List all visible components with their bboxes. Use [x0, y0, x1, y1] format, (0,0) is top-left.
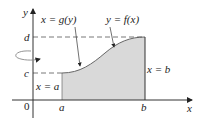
tick-a: a: [59, 102, 65, 113]
x-axis-label: x: [187, 103, 192, 114]
tick-d: d: [24, 32, 30, 43]
label-y-equals-f-x: y = f(x): [106, 14, 139, 25]
label-x-equals-g-y: x = g(y): [41, 14, 77, 25]
pointer-g: [75, 27, 80, 66]
y-axis-label: y: [23, 7, 28, 18]
tick-c: c: [24, 68, 29, 79]
shaded-region: [62, 37, 145, 100]
rotation-arrow-icon: [16, 51, 40, 60]
label-x-equals-a: x = a: [36, 81, 59, 92]
origin-label: 0: [24, 101, 30, 112]
label-x-equals-b: x = b: [147, 64, 170, 75]
tick-b: b: [141, 102, 147, 113]
